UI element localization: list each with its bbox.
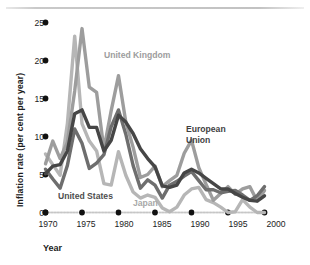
series-label-united-states: United States [58, 191, 113, 202]
plot-area [0, 0, 310, 265]
series-label-united-kingdom: United Kingdom [104, 50, 170, 61]
series-label-european-union: European Union [186, 124, 226, 145]
series-line-united-states [46, 110, 265, 200]
inflation-rate-chart: 25 20 15 10 5 0 Inflation rate (per cent… [0, 0, 310, 265]
series-label-japan: Japan [133, 198, 158, 209]
